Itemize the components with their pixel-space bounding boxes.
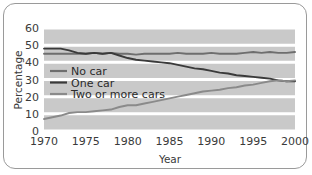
- x-tick-label: 1990: [197, 135, 225, 148]
- line-chart: 0102030405060 19701975198019851990199520…: [0, 0, 312, 175]
- x-tick-label: 1985: [156, 135, 184, 148]
- legend-label: Two or more cars: [70, 88, 165, 101]
- x-tick-label: 1975: [72, 135, 100, 148]
- chart-figure: 0102030405060 19701975198019851990199520…: [0, 0, 312, 175]
- x-axis-title: Year: [158, 153, 182, 165]
- y-tick-label: 40: [25, 56, 39, 69]
- y-tick-label: 30: [25, 74, 39, 87]
- y-tick-label: 50: [25, 39, 39, 52]
- x-tick-label: 1995: [239, 135, 267, 148]
- y-tick-label: 10: [25, 108, 39, 121]
- x-tick-label: 1970: [30, 135, 58, 148]
- y-tick-label: 60: [25, 22, 39, 35]
- y-axis-title: Percentage: [12, 50, 24, 109]
- x-tick-label: 1980: [114, 135, 142, 148]
- x-axis-tick-labels: 1970197519801985199019952000: [30, 135, 309, 148]
- y-axis-tick-labels: 0102030405060: [25, 22, 39, 138]
- x-tick-label: 2000: [281, 135, 309, 148]
- y-tick-label: 20: [25, 91, 39, 104]
